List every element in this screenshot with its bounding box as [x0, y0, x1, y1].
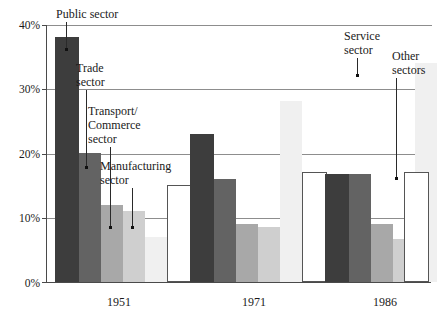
gridline-20: [47, 154, 432, 155]
bar-1971-other-sectors: [302, 172, 327, 282]
bar-1971-public-sector: [190, 134, 214, 282]
callout-manufacturing-sector-leader: [132, 188, 133, 226]
callout-service-sector-label-2: sector: [344, 44, 373, 58]
callout-other-sectors-label-2: sectors: [392, 64, 425, 78]
y-tick-10: [42, 218, 47, 219]
y-tick-20: [42, 154, 47, 155]
callout-transport-sector-dot: [109, 226, 112, 229]
x-tick-label-1986: 1986: [345, 296, 425, 308]
bar-1986-transport-commerce-sector: [371, 224, 393, 282]
callout-other-sectors-dot: [395, 177, 398, 180]
callout-service-sector-label-1: Service: [344, 30, 380, 44]
callout-public-sector-leader: [66, 22, 67, 48]
y-tick-label-30: 30%: [0, 84, 40, 95]
x-tick-label-1971: 1971: [214, 296, 294, 308]
x-tick-label-1951: 1951: [79, 296, 159, 308]
bar-1971-manufacturing-sector: [258, 227, 280, 282]
callout-service-sector-leader: [357, 58, 358, 74]
bar-1971-trade-sector: [214, 179, 236, 282]
y-tick-30: [42, 89, 47, 90]
callout-other-sectors-leader-vertical: [396, 78, 397, 177]
callout-transport-sector-label-2: Commerce: [88, 119, 141, 133]
callout-transport-sector-label-3: sector: [88, 133, 117, 147]
bar-1951-transport-commerce-sector: [101, 205, 123, 282]
bar-1971-service-sector: [280, 101, 302, 282]
callout-manufacturing-sector-label-1: Manufacturing: [100, 160, 171, 174]
gridline-40: [47, 25, 432, 26]
y-tick-label-10: 10%: [0, 213, 40, 224]
plot-area: [46, 25, 431, 283]
callout-trade-sector-label-1: Trade: [76, 62, 104, 76]
y-tick-label-40: 40%: [0, 20, 40, 31]
callout-trade-sector-leader: [86, 90, 87, 166]
callout-manufacturing-sector-label-2: sector: [100, 174, 129, 188]
bar-1986-other-sectors: [404, 172, 429, 282]
callout-other-sectors-label-1: Other: [392, 50, 419, 64]
y-tick-0: [42, 282, 47, 283]
y-tick-label-0: 0%: [0, 278, 40, 289]
y-axis-labels: 40% 30% 20% 10% 0%: [0, 0, 46, 321]
y-tick-label-20: 20%: [0, 149, 40, 160]
bar-1986-public-sector: [325, 174, 349, 282]
callout-trade-sector-label-2: sector: [76, 76, 105, 90]
bar-1986-trade-sector: [349, 174, 371, 282]
bar-1951-trade-sector: [79, 153, 101, 282]
callout-public-sector-dot: [65, 48, 68, 51]
bar-1951-manufacturing-sector: [123, 211, 145, 282]
y-tick-40: [42, 25, 47, 26]
bar-1951-other-sectors: [167, 185, 192, 282]
bar-1951-service-sector: [145, 237, 167, 282]
callout-trade-sector-dot: [85, 166, 88, 169]
callout-public-sector-label: Public sector: [56, 8, 118, 22]
callout-service-sector-dot: [356, 74, 359, 77]
grouped-bar-chart: 40% 30% 20% 10% 0%: [0, 0, 438, 321]
callout-manufacturing-sector-dot: [131, 226, 134, 229]
bar-1971-transport-commerce-sector: [236, 224, 258, 282]
callout-transport-sector-label-1: Transport/: [88, 105, 138, 119]
gridline-30: [47, 89, 432, 90]
